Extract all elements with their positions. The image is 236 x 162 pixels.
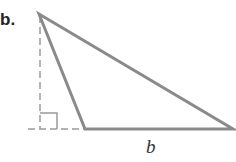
obtuse-triangle-diagram bbox=[0, 0, 236, 162]
base-label: b bbox=[146, 136, 156, 158]
triangle bbox=[39, 14, 233, 129]
right-angle-marker bbox=[40, 113, 57, 129]
